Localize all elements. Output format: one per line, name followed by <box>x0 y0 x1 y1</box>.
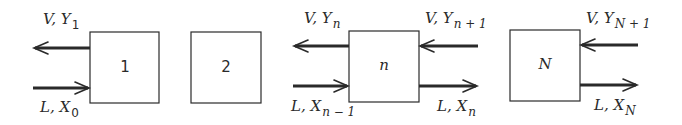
stage-2-label: 2 <box>191 60 261 75</box>
arrow-l-xN-out-icon <box>580 79 637 91</box>
stage-1-label: 1 <box>90 60 160 75</box>
stream-label-l-xN: L, XN <box>594 98 636 113</box>
stream-label-l-xn: L, Xn <box>437 99 476 114</box>
stream-label-v-yn-plus-1: V, Yn + 1 <box>425 11 487 26</box>
arrow-l-xn-out-icon <box>419 80 477 92</box>
arrow-v-yn1-in-icon <box>420 40 478 52</box>
stream-label-v-yN-plus-1: V, YN + 1 <box>586 11 650 26</box>
stream-label-l-xn-minus-1: L, Xn − 1 <box>291 99 355 114</box>
arrow-v-yN1-in-icon <box>581 39 638 51</box>
stage-n-label: n <box>349 58 419 73</box>
stage-N-label: N <box>510 57 580 72</box>
arrow-l-xn-1-in-icon <box>293 80 348 92</box>
stream-label-v-y1: V, Y1 <box>43 12 79 27</box>
arrow-l-x0-in-icon <box>33 82 89 94</box>
arrow-v-yn-out-icon <box>294 40 349 52</box>
stream-label-l-x0: L, X0 <box>40 100 79 115</box>
arrow-v-y1-out-icon <box>34 42 90 54</box>
stream-label-v-yn: V, Yn <box>304 11 340 26</box>
